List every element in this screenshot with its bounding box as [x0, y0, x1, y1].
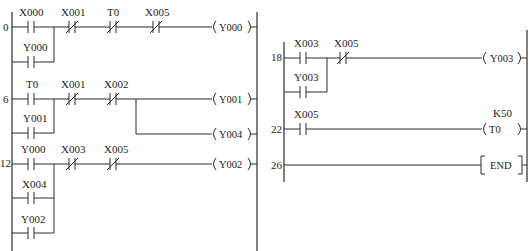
coil-label: Y003 — [490, 53, 513, 64]
coil-label: Y004 — [219, 129, 243, 140]
rung-22: 22 X005 T0 K50 — [271, 107, 527, 135]
contact-no-icon — [28, 56, 34, 68]
contact-label: X005 — [145, 6, 170, 18]
contact-label: Y000 — [23, 41, 48, 53]
right-panel: 18 X003 X005 Y003 — [271, 30, 527, 182]
contact-label: X005 — [104, 143, 129, 155]
contact-label: X001 — [61, 78, 85, 90]
contact-no-icon — [28, 158, 34, 170]
coil-label: Y002 — [219, 159, 242, 170]
contact-label: Y003 — [294, 71, 319, 83]
contact-label: Y001 — [23, 112, 47, 124]
step-number: 6 — [3, 93, 9, 105]
step-number: 22 — [271, 123, 282, 135]
contact-no-icon — [300, 123, 306, 135]
contact-no-icon — [28, 227, 34, 239]
end-label: END — [490, 160, 512, 171]
contact-label: T0 — [26, 78, 39, 90]
contact-label: X003 — [294, 37, 319, 49]
step-number: 18 — [271, 51, 283, 63]
contact-label: X005 — [334, 37, 359, 49]
contact-label: X004 — [22, 178, 47, 190]
rung-12: 12 Y000 X003 X005 — [0, 143, 257, 239]
ladder-diagram: 0 X000 X001 T0 — [0, 0, 530, 251]
rung-6: 6 T0 X001 X002 — [3, 78, 257, 140]
contact-no-icon — [300, 86, 306, 98]
contact-no-icon — [28, 127, 34, 139]
rung-26: 26 END — [271, 156, 527, 174]
coil-label: T0 — [489, 124, 501, 135]
step-number: 26 — [271, 159, 283, 171]
contact-no-icon — [28, 21, 34, 33]
contact-no-icon — [28, 93, 34, 105]
contact-label: X002 — [104, 78, 128, 90]
left-panel: 0 X000 X001 T0 — [0, 6, 257, 251]
contact-label: X001 — [61, 6, 85, 18]
coil-label: Y001 — [219, 94, 242, 105]
rung-0: 0 X000 X001 T0 — [3, 6, 257, 68]
step-number: 12 — [0, 157, 11, 169]
contact-no-icon — [300, 52, 306, 64]
contact-label: Y002 — [21, 213, 45, 225]
contact-label: X003 — [61, 143, 86, 155]
contact-label: Y000 — [21, 143, 46, 155]
coil-label: Y000 — [219, 22, 242, 33]
contact-no-icon — [28, 192, 34, 204]
contact-label: X005 — [294, 108, 319, 120]
rung-18: 18 X003 X005 Y003 — [271, 37, 527, 98]
step-number: 0 — [3, 21, 9, 33]
contact-label: X000 — [19, 6, 44, 18]
contact-label: T0 — [107, 6, 120, 18]
timer-preset: K50 — [493, 107, 512, 119]
